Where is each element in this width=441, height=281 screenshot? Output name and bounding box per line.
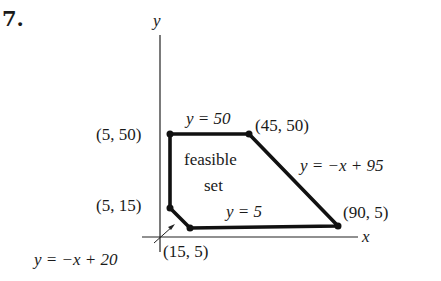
line-label-top: y = 50	[186, 110, 231, 127]
feasible-set-diagram	[0, 0, 441, 281]
vertex-5-15	[167, 205, 174, 212]
y-axis-label: y	[153, 12, 161, 29]
vertex-label-5-50: (5, 50)	[96, 126, 141, 143]
vertex-15-5	[187, 225, 194, 232]
vertex-5-50	[167, 131, 174, 138]
arrow-icon	[154, 224, 175, 243]
vertex-label-45-50: (45, 50)	[255, 117, 309, 134]
vertex-label-90-5: (90, 5)	[343, 204, 388, 221]
vertex-90-5	[335, 223, 342, 230]
region-label-line1: feasible	[184, 151, 237, 168]
region-label-line2: set	[204, 177, 223, 194]
x-axis-label: x	[362, 228, 370, 245]
line-label-corner: y = −x + 20	[34, 251, 118, 268]
vertex-45-50	[246, 131, 253, 138]
vertex-label-5-15: (5, 15)	[96, 197, 141, 214]
line-label-bottom: y = 5	[226, 203, 262, 220]
line-label-right: y = −x + 95	[300, 157, 384, 174]
vertex-label-15-5: (15, 5)	[163, 243, 208, 260]
